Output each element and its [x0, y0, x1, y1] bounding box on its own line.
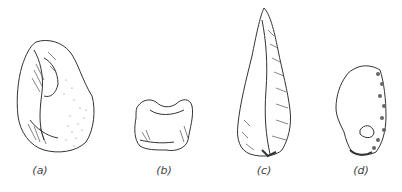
label-a: (a): [32, 164, 47, 177]
tool-a-illustration: [17, 40, 94, 151]
tool-b-illustration: [135, 100, 193, 151]
label-c: (c): [257, 164, 272, 177]
tool-d-illustration: [336, 66, 386, 155]
label-d: (d): [353, 164, 369, 177]
tool-c-illustration: [238, 8, 291, 156]
label-b: (b): [156, 164, 172, 177]
illustration: [0, 0, 402, 192]
stone-tools-figure: (a) (b) (c) (d): [0, 0, 402, 192]
